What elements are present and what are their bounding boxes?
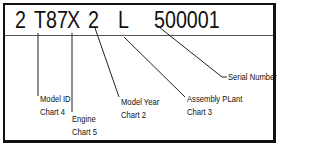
label-serial-number-title: Serial Number <box>228 71 277 84</box>
label-model-year: Model Year Chart 2 <box>121 96 159 122</box>
label-assembly-plant-chart: Chart 3 <box>187 106 242 119</box>
label-assembly-plant-title: Assembly PLant <box>187 93 242 106</box>
label-model-id: Model ID Chart 4 <box>40 93 71 119</box>
label-assembly-plant: Assembly PLant Chart 3 <box>187 93 242 119</box>
label-model-year-title: Model Year <box>121 96 159 109</box>
label-engine: Engine Chart 5 <box>72 113 97 139</box>
label-serial-number: Serial Number <box>228 71 277 84</box>
label-engine-chart: Chart 5 <box>72 126 97 139</box>
label-model-year-chart: Chart 2 <box>121 109 159 122</box>
label-model-id-chart: Chart 4 <box>40 106 71 119</box>
label-engine-title: Engine <box>72 113 97 126</box>
label-model-id-title: Model ID <box>40 93 71 106</box>
